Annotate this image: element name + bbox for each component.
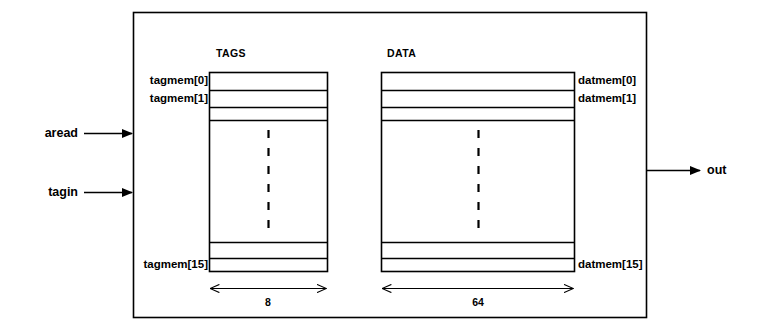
data-row-label-1: datmem[1]	[578, 93, 636, 105]
data-row-label-0: datmem[0]	[578, 75, 636, 87]
output-signal-label-out: out	[707, 164, 726, 177]
diagram-vector-layer	[0, 0, 764, 336]
data-heading: DATA	[387, 48, 416, 59]
data-row-label-15: datmem[15]	[578, 259, 643, 271]
tags-row-label-1: tagmem[1]	[150, 93, 208, 105]
tags-array	[210, 73, 328, 272]
diagram-canvas: TAGS DATA tagmem[0] tagmem[1] tagmem[15]…	[0, 0, 764, 336]
data-array	[382, 73, 575, 272]
input-signal-label-aread: aread	[45, 127, 78, 140]
tags-heading: TAGS	[216, 48, 246, 59]
tags-row-label-15: tagmem[15]	[143, 259, 208, 271]
input-signal-label-tagin: tagin	[48, 186, 78, 199]
tags-width-label: 8	[265, 297, 271, 308]
tags-row-label-0: tagmem[0]	[150, 75, 208, 87]
data-width-label: 64	[472, 297, 484, 308]
